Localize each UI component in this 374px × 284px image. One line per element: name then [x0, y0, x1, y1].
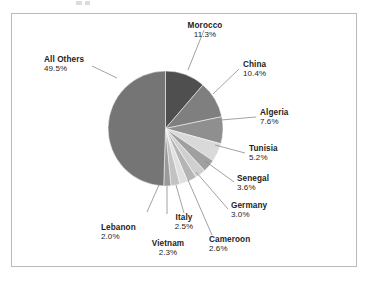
label-morocco-pct: 11.3%: [170, 31, 240, 40]
pie-slice-all-others[interactable]: [108, 71, 165, 186]
label-algeria-pct: 7.6%: [260, 118, 288, 127]
label-algeria: Algeria 7.6%: [260, 109, 288, 126]
leader-line-algeria: [221, 117, 256, 120]
label-vietnam: Vietnam 2.3%: [140, 240, 196, 257]
label-vietnam-pct: 2.3%: [140, 249, 196, 258]
leader-line-italy: [176, 185, 184, 213]
label-allothers: All Others 49.5%: [44, 56, 84, 73]
label-lebanon-pct: 2.0%: [101, 233, 136, 242]
pie-slices[interactable]: [108, 71, 223, 186]
leader-line-germany: [196, 172, 228, 209]
label-germany: Germany 3.0%: [231, 202, 267, 219]
label-senegal: Senegal 3.6%: [237, 175, 269, 192]
label-china-pct: 10.4%: [243, 70, 266, 79]
label-germany-pct: 3.0%: [231, 211, 267, 220]
label-senegal-pct: 3.6%: [237, 184, 269, 193]
label-tunisia: Tunisia 5.2%: [249, 145, 278, 162]
label-cameroon: Cameroon 2.6%: [209, 236, 250, 253]
label-lebanon: Lebanon 2.0%: [101, 224, 136, 241]
label-cameroon-pct: 2.6%: [209, 245, 250, 254]
label-tunisia-pct: 5.2%: [249, 154, 278, 163]
label-morocco: Morocco 11.3%: [170, 22, 240, 39]
label-italy: Italy 2.5%: [162, 214, 206, 231]
chart-page: Morocco 11.3% China 10.4% Algeria 7.6% T…: [0, 0, 374, 284]
leader-line-lebanon: [147, 185, 159, 212]
label-china: China 10.4%: [243, 61, 266, 78]
label-allothers-pct: 49.5%: [44, 65, 84, 74]
label-italy-pct: 2.5%: [162, 223, 206, 232]
leader-line-senegal: [205, 161, 234, 182]
leader-line-china: [213, 69, 239, 94]
leader-line-tunisia: [215, 145, 245, 153]
leader-line-allothers: [92, 66, 117, 78]
